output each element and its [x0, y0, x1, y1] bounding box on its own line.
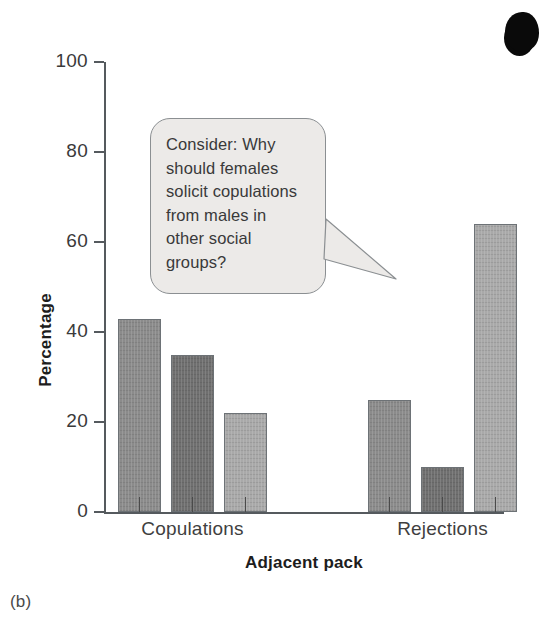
x-axis-title: Adjacent pack [104, 553, 504, 573]
y-tick-mark [94, 511, 104, 513]
y-tick-label: 60 [66, 230, 88, 252]
bar-texture [475, 225, 516, 511]
annotation-line: other social [166, 227, 312, 251]
x-tick-mark [245, 497, 247, 512]
annotation-line: from males in [166, 204, 312, 228]
bar-chart: 020406080100 Percentage CopulationsRejec… [0, 0, 540, 632]
y-tick-mark [94, 331, 104, 333]
bar [171, 355, 214, 513]
x-axis-line [104, 512, 504, 514]
bar-texture [172, 356, 213, 512]
y-tick-mark [94, 151, 104, 153]
figure-panel-b: 020406080100 Percentage CopulationsRejec… [0, 0, 540, 632]
x-group-label: Copulations [106, 518, 279, 540]
annotation-line: should females [166, 157, 312, 181]
bar [474, 224, 517, 512]
y-tick-label: 100 [55, 50, 88, 72]
y-axis-line [104, 62, 106, 513]
x-tick-mark [139, 497, 141, 512]
annotation-line: Consider: Why [166, 133, 312, 157]
x-tick-mark [495, 497, 497, 512]
x-group-label: Rejections [356, 518, 529, 540]
y-tick-label: 0 [77, 500, 88, 522]
y-tick-label: 40 [66, 320, 88, 342]
y-tick-label: 20 [66, 410, 88, 432]
x-tick-mark [192, 497, 194, 512]
figure-caption: (b) [10, 592, 31, 612]
annotation-line: groups? [166, 251, 312, 275]
y-tick-mark [94, 241, 104, 243]
y-tick-mark [94, 421, 104, 423]
x-tick-mark [442, 497, 444, 512]
bar [118, 319, 161, 513]
annotation-text: Consider: Whyshould femalessolicit copul… [166, 133, 312, 274]
bar [368, 400, 411, 513]
y-tick-label: 80 [66, 140, 88, 162]
bar-texture [119, 320, 160, 512]
y-tick-mark [94, 61, 104, 63]
y-axis-title: Percentage [36, 250, 56, 430]
annotation-line: solicit copulations [166, 180, 312, 204]
bar-texture [369, 401, 410, 512]
annotation-speech-bubble: Consider: Whyshould femalessolicit copul… [150, 118, 326, 294]
x-tick-mark [389, 497, 391, 512]
